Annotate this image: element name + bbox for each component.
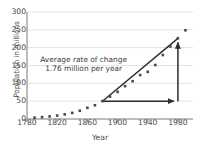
data-point <box>154 64 157 67</box>
population-chart: Population in millions 05010015020025030… <box>0 0 200 153</box>
data-point <box>124 85 127 88</box>
data-point <box>101 100 104 103</box>
data-point <box>184 29 187 32</box>
data-point <box>109 95 112 98</box>
data-point <box>94 104 97 107</box>
data-point <box>162 54 165 57</box>
chart-annotations: Average rate of change1.76 million per y… <box>40 55 127 74</box>
data-point <box>33 116 36 119</box>
data-point <box>41 116 44 119</box>
data-point <box>86 107 89 110</box>
data-point <box>116 91 119 94</box>
plot-area: Average rate of change1.76 million per y… <box>0 0 200 153</box>
data-point <box>169 45 172 48</box>
rate-of-change-label-line-1: Average rate of change <box>40 55 127 64</box>
data-point <box>139 74 142 77</box>
data-point <box>131 80 134 83</box>
rate-of-change-label-line-2: 1.76 million per year <box>45 64 123 73</box>
data-points <box>33 29 187 119</box>
data-point <box>79 109 82 112</box>
data-point <box>48 115 51 118</box>
data-point <box>146 71 149 74</box>
data-point <box>56 114 59 117</box>
data-point <box>63 113 66 116</box>
data-point <box>177 37 180 40</box>
data-point <box>71 112 74 115</box>
